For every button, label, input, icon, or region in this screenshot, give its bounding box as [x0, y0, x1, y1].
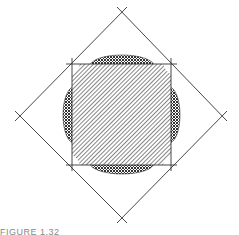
geometric-diagram [0, 0, 239, 235]
hatched-core [72, 64, 171, 165]
figure-caption: FIGURE 1.32 [0, 228, 60, 235]
